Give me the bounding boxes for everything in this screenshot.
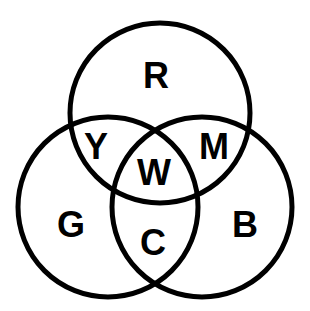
label-blue-only: B: [232, 204, 258, 245]
label-green-blue: C: [140, 222, 166, 263]
label-red-green: Y: [84, 126, 108, 167]
label-green-only: G: [57, 204, 85, 245]
label-red-blue: M: [199, 126, 229, 167]
venn-diagram: R G B Y M C W: [0, 0, 310, 311]
label-red-only: R: [143, 55, 169, 96]
label-all: W: [137, 152, 171, 193]
